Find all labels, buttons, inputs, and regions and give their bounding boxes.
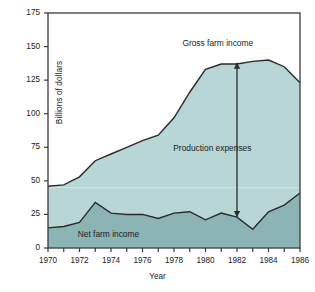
farm-income-area-chart: Billions of dollars Year 025507510012515… (0, 0, 315, 292)
annotation-production-expenses: Production expenses (173, 143, 251, 153)
plot-area (0, 0, 315, 292)
annotation-net-farm-income: Net farm income (78, 229, 139, 239)
annotation-gross-farm-income: Gross farm income (182, 38, 253, 48)
